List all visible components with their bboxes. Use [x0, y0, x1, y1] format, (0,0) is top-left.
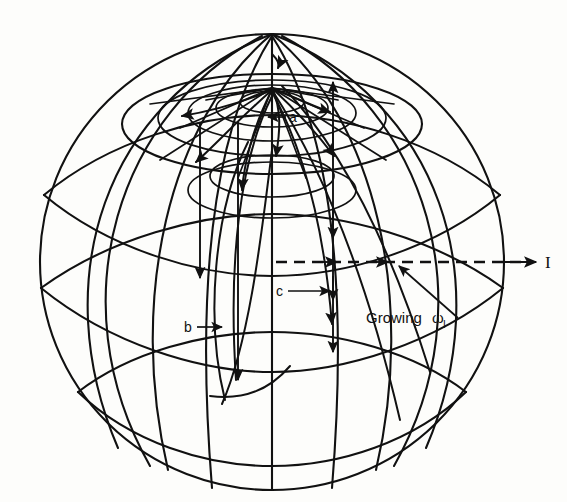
label-b-group: b — [184, 319, 222, 335]
outer-swoop-curves — [272, 86, 430, 420]
label-growing: Growing — [366, 309, 422, 326]
label-axis-I: I — [545, 253, 551, 272]
label-a: a — [289, 109, 297, 125]
axis-I-label-group: I — [545, 253, 551, 272]
label-c-group: c — [276, 283, 330, 299]
sphere-diagram-svg: a b c Growing ω I I — [0, 0, 567, 502]
label-b: b — [184, 319, 192, 335]
label-c: c — [276, 283, 283, 299]
meridian-lines — [88, 34, 457, 490]
label-omega-subscript: I — [443, 319, 446, 330]
figure-canvas: a b c Growing ω I I — [0, 0, 567, 502]
growing-omega-group: Growing ω I — [366, 266, 458, 330]
converging-trajectories — [182, 54, 334, 397]
